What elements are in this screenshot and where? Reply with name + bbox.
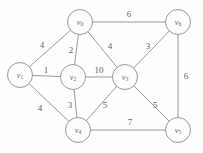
graph-edge-v0-v3 — [88, 32, 117, 68]
edge-weight-v6-v3: 3 — [146, 41, 151, 51]
edge-weight-v0-v1: 4 — [40, 40, 45, 50]
edge-weight-v3-v5: 5 — [153, 100, 158, 110]
graph-edge-v1-v2 — [32, 75, 60, 76]
graph-node-v4: v4 — [66, 118, 91, 143]
graph-edge-v0-v2 — [75, 34, 79, 64]
edge-weight-v0-v3: 4 — [108, 41, 113, 51]
graph-node-v5: v5 — [166, 118, 191, 143]
graph-figure: 64243611043557 v0v1v2v3v4v5v6 — [0, 0, 203, 153]
edge-weight-v0-v6: 6 — [127, 9, 132, 19]
graph-edge-v3-v5 — [134, 86, 169, 121]
edge-weight-v6-v5: 6 — [184, 71, 189, 81]
edge-weight-v1-v2: 1 — [44, 65, 49, 75]
graph-node-v6: v6 — [166, 10, 191, 35]
edge-weight-v0-v2: 2 — [69, 45, 74, 55]
graph-node-v1: v1 — [8, 63, 33, 88]
graph-node-v2: v2 — [61, 65, 86, 90]
graph-node-v0: v0 — [68, 10, 93, 35]
edge-weight-v4-v5: 7 — [128, 117, 133, 127]
edge-weight-v3-v4: 5 — [103, 100, 108, 110]
edge-weight-v2-v4: 3 — [68, 100, 73, 110]
graph-edge-v2-v4 — [74, 89, 77, 117]
edge-weight-v2-v3: 10 — [95, 65, 105, 75]
edges-layer — [29, 22, 178, 130]
graph-edge-v1-v4 — [29, 84, 69, 122]
graph-node-v3: v3 — [113, 65, 138, 90]
graph-edge-v6-v3 — [134, 31, 170, 68]
graph-edge-v3-v4 — [86, 86, 116, 120]
edge-weight-v1-v4: 4 — [38, 103, 43, 113]
graph-canvas: 64243611043557 v0v1v2v3v4v5v6 — [0, 0, 203, 153]
graph-edge-v0-v1 — [29, 30, 70, 66]
